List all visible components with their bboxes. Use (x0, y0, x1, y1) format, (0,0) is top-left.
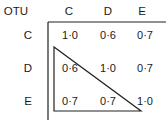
cell-c-c: 1·0 (62, 29, 78, 41)
column-header-c: C (65, 5, 73, 17)
cell-e-e: 1·0 (137, 95, 153, 107)
column-header-d: D (104, 5, 112, 17)
cell-d-e: 0·7 (137, 62, 153, 74)
cell-c-d: 0·6 (100, 29, 116, 41)
cell-e-c: 0·7 (62, 95, 78, 107)
row-header-c: C (24, 29, 32, 41)
column-header-e: E (138, 5, 146, 17)
cell-c-e: 0·7 (137, 29, 153, 41)
cell-d-d: 1·0 (100, 62, 116, 74)
row-header-e: E (24, 95, 32, 107)
row-header-d: D (24, 62, 32, 74)
cell-e-d: 0·7 (100, 95, 116, 107)
cell-d-c: 0·6 (62, 62, 78, 74)
corner-label: OTU (4, 5, 28, 17)
